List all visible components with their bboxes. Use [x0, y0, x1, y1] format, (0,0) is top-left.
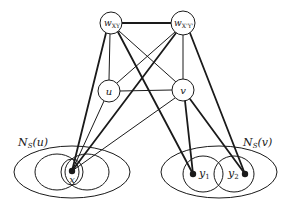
- svg-text:y1: y1: [198, 167, 210, 181]
- edge-wxpyp-x: [72, 33, 176, 171]
- point-x-label: x: [69, 174, 75, 185]
- set-nsv-arg: (v): [257, 136, 272, 149]
- node-wxpyp[interactable]: wX'Y': [171, 11, 195, 35]
- set-nsu-main: N: [17, 136, 28, 149]
- node-wxy-sub: XY: [112, 22, 121, 29]
- node-u-label: u: [106, 86, 112, 97]
- point-x[interactable]: x: [69, 168, 75, 185]
- neighborhood-right: [161, 146, 277, 198]
- set-label-nsu: NS(u): [17, 136, 48, 150]
- edge-wxpyp-u: [117, 32, 175, 83]
- node-u[interactable]: u: [98, 80, 120, 102]
- node-wxy[interactable]: wXY: [100, 12, 122, 34]
- edge-wxpyp-y2: [190, 33, 245, 174]
- edge-u-v: [120, 90, 172, 91]
- point-y2-dot: [242, 171, 248, 177]
- set-nsu-arg: (u): [32, 136, 48, 149]
- edge-wxy-y1: [118, 32, 193, 174]
- edges: [72, 23, 245, 174]
- graph-diagram: wXY wX'Y' u v x y1 y2 NS(u) NS(v): [0, 0, 289, 214]
- node-v[interactable]: v: [172, 79, 194, 101]
- set-label-nsv: NS(v): [242, 136, 272, 150]
- svg-text:y2: y2: [227, 167, 239, 181]
- set-nsv-main: N: [242, 136, 253, 149]
- node-v-label: v: [180, 85, 186, 96]
- node-wxpyp-sub: X'Y': [182, 22, 194, 29]
- edge-wxy-u: [109, 34, 110, 80]
- point-y1-dot: [190, 171, 196, 177]
- outer-ellipse-right: [161, 146, 277, 198]
- point-y1-sub: 1: [205, 173, 209, 181]
- point-y2[interactable]: y2: [227, 167, 248, 181]
- point-y2-sub: 2: [234, 173, 238, 181]
- edge-v-y2: [190, 99, 245, 174]
